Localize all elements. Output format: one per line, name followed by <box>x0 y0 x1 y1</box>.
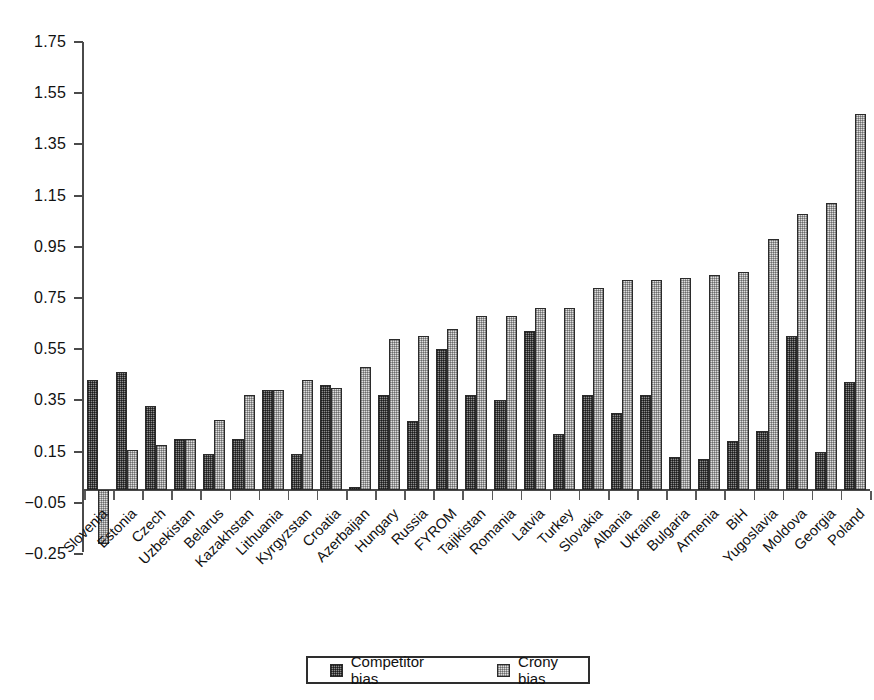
bar-competitor-bias <box>727 441 738 490</box>
x-tick-mark <box>375 491 377 500</box>
bar-competitor-bias <box>786 336 797 490</box>
bar-group <box>608 42 637 490</box>
bar-group <box>142 42 171 490</box>
y-tick-label: 1.55 <box>0 85 66 101</box>
bar-crony-bias <box>244 395 255 490</box>
bar-crony-bias <box>185 439 196 490</box>
bar-competitor-bias <box>524 331 535 490</box>
bar-group <box>462 42 491 490</box>
x-tick-mark <box>550 491 552 500</box>
bar-crony-bias <box>214 420 225 490</box>
x-tick-mark <box>870 491 872 500</box>
bar-crony-bias <box>506 316 517 490</box>
bar-group <box>288 42 317 490</box>
bar-group <box>812 42 841 490</box>
bar-competitor-bias <box>262 390 273 490</box>
bar-competitor-bias <box>669 457 680 490</box>
y-tick-mark <box>74 92 83 94</box>
bar-group <box>404 42 433 490</box>
bar-group <box>492 42 521 490</box>
y-tick-label: 0.15 <box>0 444 66 460</box>
bar-group <box>637 42 666 490</box>
bar-competitor-bias <box>611 413 622 490</box>
x-tick-mark <box>492 491 494 500</box>
x-tick-mark <box>142 491 144 500</box>
bar-crony-bias <box>651 280 662 490</box>
x-tick-mark <box>841 491 843 500</box>
bar-group <box>783 42 812 490</box>
y-tick-label: 0.75 <box>0 290 66 306</box>
y-tick-label: 1.15 <box>0 188 66 204</box>
y-tick-label: 0.95 <box>0 239 66 255</box>
legend-item-crony-bias: Crony bias <box>497 653 588 687</box>
bar-group <box>346 42 375 490</box>
bar-competitor-bias <box>815 452 826 490</box>
y-tick-label: 1.35 <box>0 136 66 152</box>
x-tick-mark <box>666 491 668 500</box>
y-tick-mark <box>74 399 83 401</box>
bar-competitor-bias <box>320 385 331 490</box>
legend-label-crony: Crony bias <box>518 653 588 687</box>
legend-swatch-crony-icon <box>497 664 510 677</box>
bar-competitor-bias <box>640 395 651 490</box>
bar-crony-bias <box>360 367 371 490</box>
x-tick-mark <box>637 491 639 500</box>
bar-group <box>666 42 695 490</box>
y-tick-mark <box>74 246 83 248</box>
bar-competitor-bias <box>378 395 389 490</box>
bar-group <box>84 42 113 490</box>
x-tick-mark <box>200 491 202 500</box>
bar-competitor-bias <box>844 382 855 490</box>
y-tick-label: 0.55 <box>0 341 66 357</box>
bar-group <box>521 42 550 490</box>
bar-crony-bias <box>389 339 400 490</box>
bar-competitor-bias <box>145 406 156 490</box>
bar-group <box>695 42 724 490</box>
bar-group <box>579 42 608 490</box>
bar-competitor-bias <box>407 421 418 490</box>
bar-competitor-bias <box>756 431 767 490</box>
y-tick-mark <box>74 195 83 197</box>
y-tick-mark <box>74 502 83 504</box>
x-tick-mark <box>783 491 785 500</box>
legend-item-competitor-bias: Competitor bias <box>330 653 453 687</box>
y-tick-mark <box>74 451 83 453</box>
bar-competitor-bias <box>553 434 564 490</box>
bar-competitor-bias <box>203 454 214 490</box>
bar-group <box>375 42 404 490</box>
bar-crony-bias <box>156 445 167 490</box>
x-tick-mark <box>259 491 261 500</box>
y-tick-mark <box>74 348 83 350</box>
bar-group <box>200 42 229 490</box>
bar-crony-bias <box>709 275 720 490</box>
bar-group <box>317 42 346 490</box>
bar-crony-bias <box>418 336 429 490</box>
x-tick-mark <box>171 491 173 500</box>
bar-competitor-bias <box>698 459 709 490</box>
bar-competitor-bias <box>87 380 98 490</box>
bar-group <box>550 42 579 490</box>
bar-crony-bias <box>768 239 779 490</box>
x-tick-mark <box>288 491 290 500</box>
bar-group <box>841 42 870 490</box>
x-tick-mark <box>521 491 523 500</box>
x-tick-mark <box>812 491 814 500</box>
bar-chart: 1.751.551.351.150.950.750.550.350.15−0.0… <box>0 0 874 700</box>
x-tick-mark <box>462 491 464 500</box>
bar-crony-bias <box>826 203 837 490</box>
x-tick-mark <box>579 491 581 500</box>
bar-competitor-bias <box>116 372 127 490</box>
bar-crony-bias <box>447 329 458 490</box>
bar-crony-bias <box>738 272 749 490</box>
bar-crony-bias <box>273 390 284 490</box>
bar-group <box>230 42 259 490</box>
bar-crony-bias <box>331 388 342 490</box>
legend-label-competitor: Competitor bias <box>351 653 454 687</box>
x-tick-mark <box>404 491 406 500</box>
bar-crony-bias <box>593 288 604 490</box>
y-tick-mark <box>74 143 83 145</box>
bar-crony-bias <box>855 114 866 490</box>
bar-competitor-bias <box>436 349 447 490</box>
y-tick-mark <box>74 41 83 43</box>
y-tick-label: 1.75 <box>0 34 66 50</box>
